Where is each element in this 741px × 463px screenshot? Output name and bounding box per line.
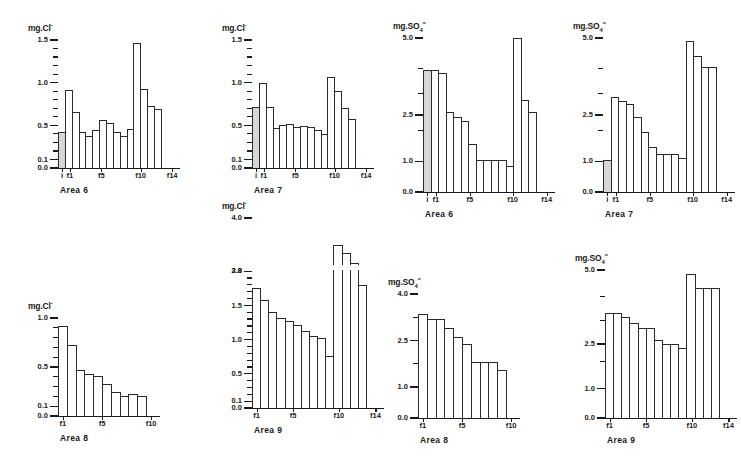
y-axis: 1.51.00.50.10.0 [24, 40, 58, 168]
y-axis-tick-label: 0.1 [38, 156, 48, 164]
tick-mark [244, 339, 252, 340]
x-axis-tick-label: f5 [459, 422, 466, 430]
bar [154, 109, 162, 168]
panel-title: Area 9 [607, 436, 635, 445]
y-axis-tick-label: 1.0 [403, 157, 413, 165]
plot-area [252, 218, 380, 408]
y-axis-tick-label: 1.5 [232, 36, 242, 44]
y-axis-tick-label: 1.0 [232, 79, 242, 87]
bar-series [603, 38, 731, 192]
x-axis-tick-label: f1 [66, 172, 73, 180]
x-axis-tick-label: f14 [361, 172, 372, 180]
x-axis-tick-label: f1 [432, 196, 439, 204]
tick-mark [597, 343, 605, 344]
bar-series [58, 318, 156, 416]
tick-mark [244, 271, 252, 272]
y-axis-unit-label: mg.SO4= [573, 19, 606, 35]
tick-mark [244, 82, 252, 83]
x-axis-tick-label: f1 [253, 412, 260, 420]
y-axis-tick-label: 1.0 [232, 336, 242, 344]
tick-mark [410, 386, 418, 387]
tick-mark [244, 217, 252, 218]
tick-mark [50, 39, 58, 40]
x-axis-tick-label: f5 [292, 172, 299, 180]
tick-mark [244, 125, 252, 126]
tick-mark [415, 37, 423, 38]
x-axis-tick-label: f14 [723, 422, 734, 430]
y-axis-tick-label: 4.0 [232, 214, 242, 222]
tick-mark [244, 159, 252, 160]
plot-area [58, 318, 156, 416]
x-axis-tick-label: f10 [687, 196, 698, 204]
tick-mark [415, 161, 423, 162]
y-axis: 1.00.50.10.0 [24, 318, 58, 416]
bar [708, 67, 717, 192]
bar [711, 288, 720, 418]
tick-mark [244, 39, 252, 40]
x-axis-tick-label: f10 [333, 412, 344, 420]
x-axis-tick-label: f1 [260, 172, 267, 180]
y-axis-tick-label: 1.0 [585, 385, 595, 393]
x-axis-tick-label: f14 [721, 196, 732, 204]
tick-mark [595, 37, 603, 38]
y-axis-tick-label: 0.0 [38, 412, 48, 420]
x-axis-tick-label: f14 [370, 412, 381, 420]
y-axis-unit-label: mg.Cl- [222, 21, 246, 33]
x-axis-line [599, 192, 735, 193]
y-axis-tick-label: 1.0 [398, 383, 408, 391]
x-axis-tick-label: f1 [60, 420, 67, 428]
y-axis-tick-label: 1.0 [583, 157, 593, 165]
y-axis: 5.02.51.00.0 [389, 38, 423, 192]
y-axis-tick-label: 0.5 [38, 122, 48, 130]
y-axis-unit-label: mg.Cl- [28, 299, 52, 311]
plot-area [58, 40, 176, 168]
x-axis-tick-label: i [426, 196, 428, 204]
tick-mark [50, 159, 58, 160]
x-axis-line [414, 418, 520, 419]
tick-mark [50, 125, 58, 126]
y-axis-tick-label: 0.0 [232, 164, 242, 172]
tick-mark [595, 114, 603, 115]
tick-mark [597, 388, 605, 389]
y-axis-tick-label: 0.5 [232, 122, 242, 130]
x-axis-tick-label: f5 [643, 422, 650, 430]
bar-series [252, 40, 370, 168]
x-axis-line [248, 168, 374, 169]
tick-mark [410, 340, 418, 341]
x-axis-tick-label: f1 [420, 422, 427, 430]
y-axis-unit-label: mg.Cl- [28, 21, 52, 33]
y-axis-tick-label: 0.5 [38, 363, 48, 371]
bar [497, 370, 507, 418]
x-axis-tick-label: f1 [606, 422, 613, 430]
panel-title: Area 8 [60, 434, 88, 443]
bar [137, 396, 147, 416]
y-axis-tick-label: 2.5 [583, 111, 593, 119]
bar-series [252, 218, 380, 408]
x-axis-tick-label: f14 [167, 172, 178, 180]
y-axis-tick-label: 5.0 [583, 34, 593, 42]
tick-mark [50, 366, 58, 367]
x-axis-tick-label: f10 [506, 422, 517, 430]
x-axis-tick-label: f10 [686, 422, 697, 430]
plot-area [252, 40, 370, 168]
x-axis-tick-label: f5 [647, 196, 654, 204]
y-axis: 4.02.51.00.0 [384, 294, 418, 418]
panel-title: Area 7 [254, 186, 282, 195]
y-axis: 5.02.51.00.0 [569, 38, 603, 192]
y-axis-tick-label: 5.0 [403, 34, 413, 42]
y-axis-tick-label: 2.0 [232, 267, 242, 275]
y-axis-tick-label: 1.0 [38, 314, 48, 322]
x-axis-line [54, 416, 160, 417]
x-axis-tick-label: f5 [467, 196, 474, 204]
x-axis-tick-label: f10 [507, 196, 518, 204]
tick-mark [410, 293, 418, 294]
y-axis-tick-label: 0.0 [398, 414, 408, 422]
x-axis-line [248, 408, 384, 409]
tick-mark [244, 305, 252, 306]
y-axis-tick-label: 0.1 [232, 156, 242, 164]
tick-mark [244, 373, 252, 374]
tick-mark [415, 114, 423, 115]
tick-mark [50, 406, 58, 407]
x-axis-tick-label: f10 [329, 172, 340, 180]
y-axis: 1.51.00.50.10.0 [218, 40, 252, 168]
